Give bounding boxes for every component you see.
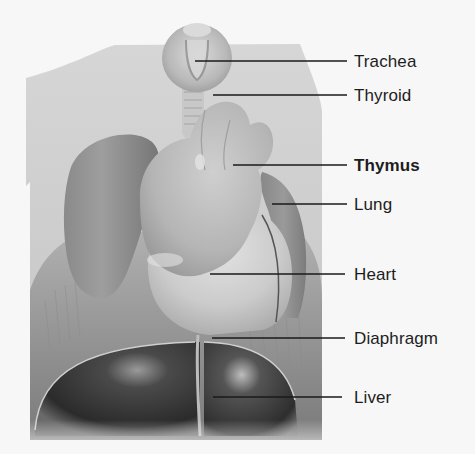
label-thyroid: Thyroid bbox=[354, 86, 411, 106]
label-liver: Liver bbox=[354, 388, 391, 408]
label-diaphragm: Diaphragm bbox=[354, 329, 438, 349]
label-thymus: Thymus bbox=[354, 156, 420, 176]
label-lung: Lung bbox=[354, 195, 392, 215]
label-heart: Heart bbox=[354, 265, 396, 285]
label-trachea: Trachea bbox=[354, 52, 416, 72]
anatomy-figure: Trachea Thyroid Thymus Lung Heart Diaphr… bbox=[0, 0, 475, 454]
